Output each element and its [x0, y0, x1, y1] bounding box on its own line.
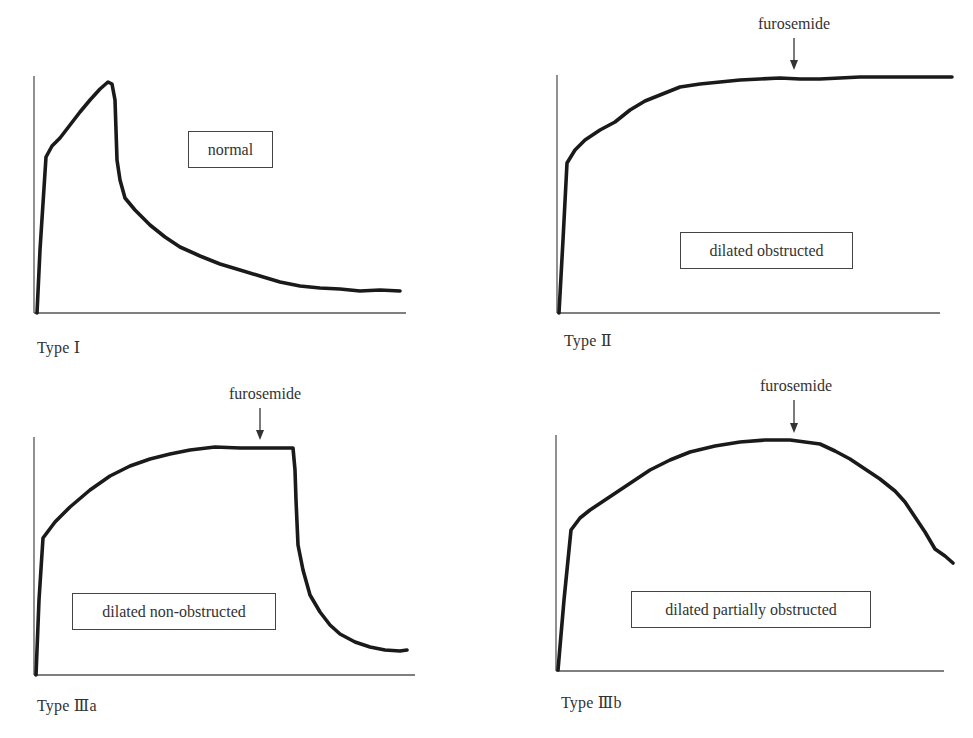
panel-label-type-3a: Type Ⅲa — [37, 696, 97, 715]
renogram-curve — [558, 440, 953, 670]
panel-type-3a-plot — [34, 408, 415, 675]
furosemide-arrow-icon — [256, 408, 264, 440]
furosemide-label: furosemide — [760, 377, 832, 395]
category-box-normal: normal — [188, 131, 273, 168]
category-box-dilated-partially-obstructed: dilated partially obstructed — [631, 591, 871, 628]
panel-label-type-3b: Type Ⅲb — [561, 693, 622, 712]
panel-label-type-2: Type Ⅱ — [564, 331, 612, 350]
category-box-dilated-non-obstructed: dilated non-obstructed — [72, 593, 276, 630]
renogram-curve — [559, 77, 952, 313]
panel-type-2-plot — [557, 38, 952, 313]
panel-type-3b-plot — [556, 400, 953, 671]
renogram-curve — [36, 447, 407, 675]
renogram-curve — [37, 82, 400, 313]
renogram-figure: normal Type Ⅰ furosemide dilated obstruc… — [0, 0, 973, 738]
panel-type-1-plot — [34, 76, 406, 313]
furosemide-arrow-icon — [790, 400, 798, 433]
category-box-dilated-obstructed: dilated obstructed — [680, 232, 853, 269]
panel-label-type-1: Type Ⅰ — [37, 338, 80, 357]
furosemide-label: furosemide — [229, 385, 301, 403]
furosemide-label: furosemide — [758, 15, 830, 33]
furosemide-arrow-icon — [790, 38, 798, 70]
